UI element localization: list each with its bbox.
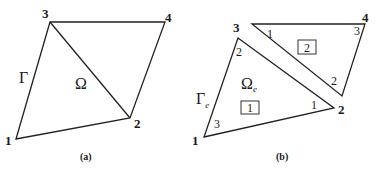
global-node-1: 1 (192, 133, 199, 148)
domain-label-omega: Ω (75, 75, 87, 92)
domain-label-omega-e: Ωe (241, 75, 257, 94)
caption-a: (a) (80, 151, 92, 163)
e1-local-node-2: 2 (236, 45, 242, 59)
node-label-a-1: 1 (5, 133, 12, 148)
element-1-id: 1 (247, 101, 253, 115)
panel-a: 1 2 3 4 Γ Ω (a) (5, 6, 172, 163)
node-label-a-4: 4 (165, 10, 172, 25)
diagonal-3-2 (50, 22, 130, 118)
e1-local-node-1: 1 (311, 98, 317, 112)
element-1-triangle (204, 38, 334, 137)
e1-local-node-3: 3 (214, 117, 220, 131)
e2-local-node-2: 2 (331, 74, 337, 88)
e2-local-node-1: 1 (267, 27, 273, 41)
domain-quadrilateral (16, 22, 165, 139)
caption-b: (b) (276, 151, 288, 163)
finite-element-diagram: 1 2 3 4 Γ Ω (a) 1 2 3 4 1 2 3 1 2 3 1 2 … (0, 0, 378, 169)
global-node-2: 2 (338, 102, 345, 117)
e2-local-node-3: 3 (354, 24, 360, 38)
global-node-3: 3 (233, 20, 240, 35)
boundary-label-gamma-e: Γe (196, 90, 209, 110)
boundary-label-gamma: Γ (19, 69, 28, 86)
node-label-a-3: 3 (42, 6, 49, 21)
element-2-id: 2 (304, 41, 310, 55)
global-node-4: 4 (362, 10, 369, 25)
panel-b: 1 2 3 4 1 2 3 1 2 3 1 2 Γe Ωe (b) (192, 10, 369, 163)
node-label-a-2: 2 (134, 116, 141, 131)
